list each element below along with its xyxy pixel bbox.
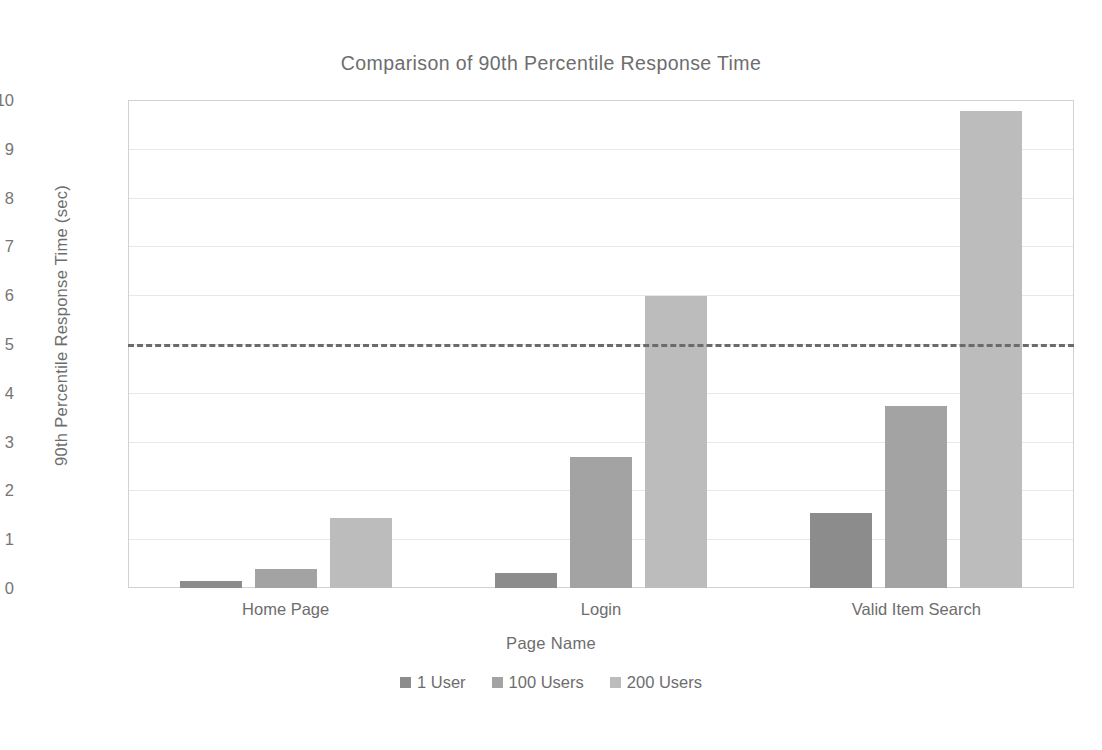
y-axis-tick-label: 7 xyxy=(0,237,14,256)
plot-top-border xyxy=(128,100,1074,101)
y-axis-tick-label: 4 xyxy=(0,383,14,402)
bar xyxy=(180,581,242,588)
bar xyxy=(495,573,557,588)
bar xyxy=(570,457,632,588)
bar xyxy=(330,518,392,588)
legend-swatch-icon xyxy=(400,677,411,688)
bar xyxy=(645,296,707,588)
plot-area xyxy=(128,100,1074,588)
chart-container: Comparison of 90th Percentile Response T… xyxy=(0,0,1102,750)
legend-item[interactable]: 1 User xyxy=(400,673,466,692)
x-axis-tick-label: Valid Item Search xyxy=(852,600,981,619)
legend-label: 200 Users xyxy=(627,673,702,692)
bar xyxy=(810,513,872,588)
x-axis-tick-label: Login xyxy=(581,600,621,619)
gridline xyxy=(128,149,1074,150)
threshold-line xyxy=(128,344,1074,347)
y-axis-tick-label: 5 xyxy=(0,335,14,354)
y-axis-tick-label: 8 xyxy=(0,188,14,207)
legend-item[interactable]: 100 Users xyxy=(492,673,584,692)
gridline xyxy=(128,198,1074,199)
legend-label: 100 Users xyxy=(509,673,584,692)
y-axis-tick-label: 6 xyxy=(0,286,14,305)
y-axis-tick-label: 2 xyxy=(0,481,14,500)
gridline xyxy=(128,246,1074,247)
y-axis-tick-label: 10 xyxy=(0,91,14,110)
y-axis-tick-label: 0 xyxy=(0,579,14,598)
legend-swatch-icon xyxy=(492,677,503,688)
bar xyxy=(885,406,947,588)
y-axis-title: 90th Percentile Response Time (sec) xyxy=(52,116,71,536)
bar xyxy=(255,569,317,588)
y-axis-tick-label: 9 xyxy=(0,139,14,158)
chart-legend: 1 User100 Users200 Users xyxy=(0,673,1102,692)
legend-item[interactable]: 200 Users xyxy=(610,673,702,692)
gridline xyxy=(128,295,1074,296)
x-axis-title: Page Name xyxy=(0,634,1102,653)
legend-label: 1 User xyxy=(417,673,466,692)
y-axis-tick-label: 3 xyxy=(0,432,14,451)
bar xyxy=(960,111,1022,588)
legend-swatch-icon xyxy=(610,677,621,688)
x-axis-tick-label: Home Page xyxy=(242,600,329,619)
chart-title: Comparison of 90th Percentile Response T… xyxy=(0,52,1102,75)
gridline xyxy=(128,393,1074,394)
y-axis-tick-label: 1 xyxy=(0,530,14,549)
